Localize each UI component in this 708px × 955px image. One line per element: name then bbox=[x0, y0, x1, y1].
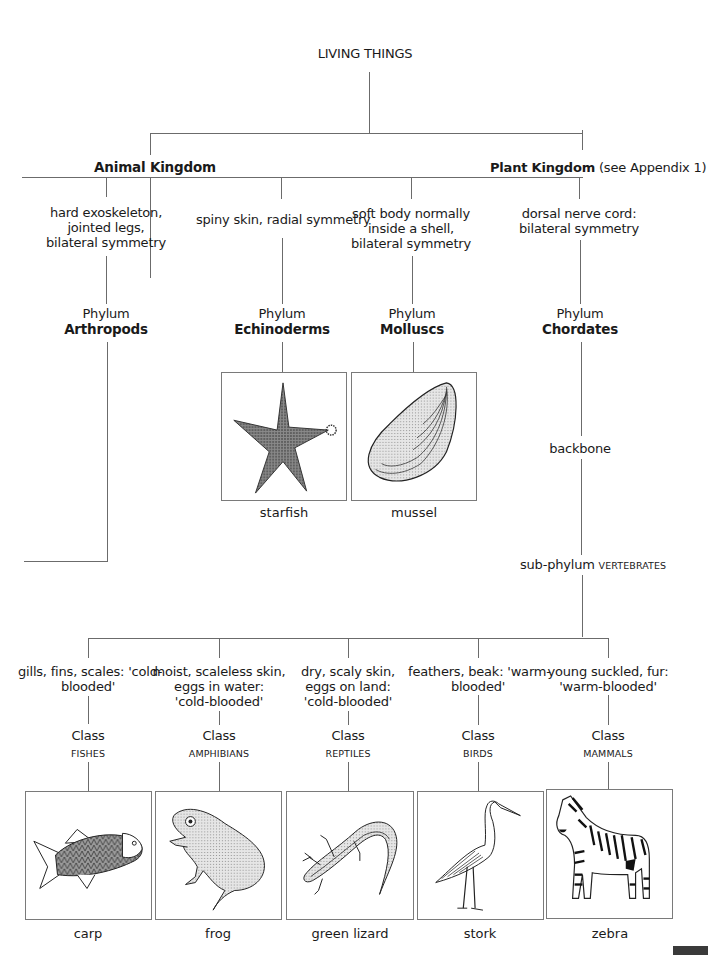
frog-illustration bbox=[156, 792, 281, 919]
connector bbox=[282, 342, 283, 374]
trait-line: bilateral symmetry bbox=[514, 221, 644, 236]
fishes-rank: Class bbox=[38, 728, 138, 743]
connector bbox=[106, 256, 107, 304]
mussel-illustration bbox=[352, 373, 476, 500]
molluscs-rank: Phylum bbox=[362, 306, 462, 321]
connector bbox=[478, 638, 479, 658]
fishes-name: FISHES bbox=[38, 746, 138, 761]
stork-box bbox=[417, 791, 544, 920]
connector bbox=[608, 695, 609, 725]
amphibians-name: AMPHIBIANS bbox=[169, 746, 269, 761]
connector bbox=[219, 762, 220, 792]
connector bbox=[107, 342, 108, 562]
zebra-box bbox=[546, 789, 673, 919]
mammals-name: MAMMALS bbox=[558, 746, 658, 761]
zebra-caption: zebra bbox=[540, 926, 680, 941]
trait-line: young suckled, fur: bbox=[538, 664, 678, 679]
frog-caption: frog bbox=[148, 926, 288, 941]
connector bbox=[88, 696, 89, 724]
zebra-illustration bbox=[547, 790, 672, 918]
connector bbox=[88, 638, 89, 658]
connector bbox=[348, 762, 349, 792]
connector bbox=[582, 130, 583, 150]
plant-kingdom-note: (see Appendix 1) bbox=[599, 160, 706, 175]
connector bbox=[582, 575, 583, 637]
starfish-caption: starfish bbox=[214, 505, 354, 520]
trait-line: 'cold-blooded' bbox=[149, 694, 289, 709]
mussel-caption: mussel bbox=[344, 505, 484, 520]
trait-line: feathers, beak: 'warm- bbox=[408, 664, 548, 679]
chordates-rank: Phylum bbox=[530, 306, 630, 321]
arthropods-traits: hard exoskeleton, jointed legs, bilatera… bbox=[36, 205, 176, 250]
backbone-label: backbone bbox=[530, 441, 630, 456]
subphylum-prefix: sub-phylum bbox=[520, 557, 595, 572]
starfish-box bbox=[221, 372, 347, 501]
carp-caption: carp bbox=[18, 926, 158, 941]
trait-line: hard exoskeleton, bbox=[36, 205, 176, 220]
trait-line: bilateral symmetry bbox=[36, 235, 176, 250]
reptiles-traits: dry, scaly skin, eggs on land: 'cold-blo… bbox=[278, 664, 418, 709]
connector bbox=[478, 762, 479, 792]
chordates-name: Chordates bbox=[520, 322, 640, 337]
trait-line: soft body normally bbox=[346, 206, 476, 221]
molluscs-name: Molluscs bbox=[352, 322, 472, 337]
connector bbox=[348, 711, 349, 725]
lizard-caption: green lizard bbox=[280, 926, 420, 941]
connector bbox=[413, 342, 414, 374]
stork-illustration bbox=[418, 792, 543, 919]
connector bbox=[579, 177, 580, 199]
connector bbox=[219, 711, 220, 725]
echinoderms-rank: Phylum bbox=[232, 306, 332, 321]
connector bbox=[219, 638, 220, 658]
trait-line: 'cold-blooded' bbox=[278, 694, 418, 709]
connector bbox=[88, 762, 89, 792]
reptiles-rank: Class bbox=[298, 728, 398, 743]
starfish-illustration bbox=[222, 373, 346, 500]
molluscs-traits: soft body normally inside a shell, bilat… bbox=[346, 206, 476, 251]
mussel-box bbox=[351, 372, 477, 501]
connector bbox=[282, 238, 283, 304]
amphibians-traits: moist, scaleless skin, eggs in water: 'c… bbox=[149, 664, 289, 709]
trait-line: inside a shell, bbox=[346, 221, 476, 236]
fishes-traits: gills, fins, scales: 'cold- blooded' bbox=[18, 664, 158, 694]
trait-line: gills, fins, scales: 'cold- bbox=[18, 664, 158, 679]
connector bbox=[608, 638, 609, 658]
connector bbox=[24, 561, 108, 562]
trait-line: eggs on land: bbox=[278, 679, 418, 694]
trait-line: dry, scaly skin, bbox=[278, 664, 418, 679]
connector bbox=[369, 72, 370, 134]
echinoderms-name: Echinoderms bbox=[222, 322, 342, 337]
connector bbox=[150, 133, 583, 134]
birds-traits: feathers, beak: 'warm- blooded' bbox=[408, 664, 548, 694]
arthropods-rank: Phylum bbox=[56, 306, 156, 321]
frog-box bbox=[155, 791, 282, 920]
amphibians-rank: Class bbox=[169, 728, 269, 743]
plant-kingdom-name: Plant Kingdom bbox=[490, 160, 595, 175]
subphylum-name: VERTEBRATES bbox=[599, 560, 667, 571]
subphylum-label: sub-phylum VERTEBRATES bbox=[520, 557, 708, 573]
connector bbox=[581, 459, 582, 555]
connector bbox=[411, 177, 412, 199]
connector bbox=[150, 133, 151, 155]
trait-line: dorsal nerve cord: bbox=[514, 206, 644, 221]
connector bbox=[281, 177, 282, 199]
chordates-traits: dorsal nerve cord: bilateral symmetry bbox=[514, 206, 644, 236]
trait-line: eggs in water: bbox=[149, 679, 289, 694]
echinoderms-traits: spiny skin, radial symmetry bbox=[196, 212, 366, 227]
trait-line: bilateral symmetry bbox=[346, 236, 476, 251]
mammals-rank: Class bbox=[558, 728, 658, 743]
plant-kingdom-label: Plant Kingdom (see Appendix 1) bbox=[490, 160, 705, 175]
page-tab-marker bbox=[673, 946, 708, 955]
trait-line: 'warm-blooded' bbox=[538, 679, 678, 694]
trait-line: blooded' bbox=[408, 679, 548, 694]
connector bbox=[580, 240, 581, 304]
carp-box bbox=[25, 791, 152, 920]
birds-rank: Class bbox=[428, 728, 528, 743]
lizard-box bbox=[286, 791, 414, 920]
trait-line: jointed legs, bbox=[36, 220, 176, 235]
mammals-traits: young suckled, fur: 'warm-blooded' bbox=[538, 664, 678, 694]
lizard-illustration bbox=[287, 792, 413, 919]
connector bbox=[412, 256, 413, 304]
trait-line: blooded' bbox=[18, 679, 158, 694]
arthropods-name: Arthropods bbox=[46, 322, 166, 337]
